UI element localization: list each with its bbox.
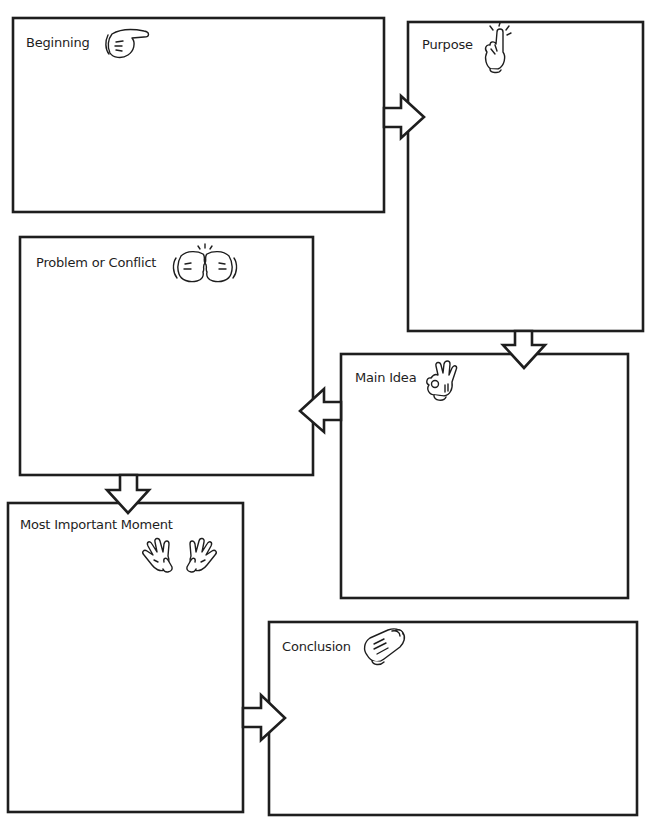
main-idea-box[interactable] — [341, 354, 628, 598]
most-important-label: Most Important Moment — [20, 517, 173, 532]
purpose-box[interactable] — [408, 22, 643, 331]
main-idea-label: Main Idea — [355, 370, 416, 385]
problem-label: Problem or Conflict — [36, 255, 156, 270]
problem-box[interactable] — [20, 237, 313, 475]
purpose-label: Purpose — [422, 37, 473, 52]
conclusion-label: Conclusion — [282, 639, 351, 654]
graphic-organizer — [0, 0, 652, 822]
beginning-label: Beginning — [26, 35, 90, 50]
